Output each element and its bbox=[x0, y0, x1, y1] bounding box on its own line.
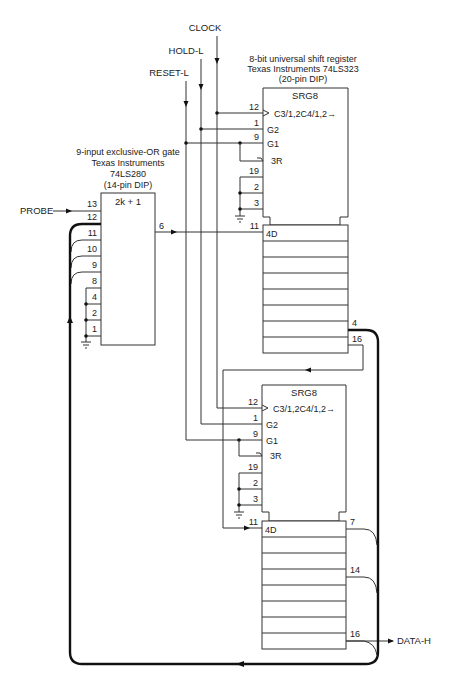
gate-title-line-1: 9-input exclusive-OR gate bbox=[76, 147, 180, 157]
data-in-label: 4D bbox=[265, 525, 277, 535]
hold-arrow-icon bbox=[199, 84, 204, 90]
register-symbol: SRG8 bbox=[291, 387, 317, 398]
probe-arrow-icon bbox=[66, 209, 72, 214]
junction-dot bbox=[237, 487, 241, 491]
output-pin-14: 14 bbox=[350, 565, 360, 575]
pin-2: 2 bbox=[253, 478, 258, 488]
output-pin-4: 4 bbox=[352, 318, 357, 328]
output-pin-16: 16 bbox=[350, 629, 360, 639]
data-out-label: DATA-H bbox=[397, 635, 431, 646]
probe-label: PROBE bbox=[20, 205, 53, 216]
junction-dot bbox=[84, 334, 88, 338]
reset-3r-wire bbox=[239, 440, 262, 456]
output-pin-16: 16 bbox=[352, 334, 362, 344]
pin-12: 12 bbox=[248, 397, 258, 407]
ground-icon bbox=[235, 216, 245, 222]
gate-pin-11: 11 bbox=[88, 228, 97, 238]
gate-pin-8: 8 bbox=[92, 276, 97, 286]
gate-pin-4: 4 bbox=[92, 292, 97, 302]
reset-label: RESET-L bbox=[149, 67, 189, 78]
register-title-line-3: (20-pin DIP) bbox=[279, 74, 328, 84]
junction-dot bbox=[84, 302, 88, 306]
clock-label: CLOCK bbox=[189, 22, 222, 33]
hold-label: HOLD-L bbox=[169, 45, 204, 56]
parity-gate-74ls280: 9-input exclusive-OR gate Texas Instrume… bbox=[20, 147, 263, 348]
g1-label: G1 bbox=[267, 139, 279, 149]
junction-dot bbox=[238, 191, 242, 195]
parity-out-arrow-icon bbox=[171, 230, 177, 235]
junction-dot bbox=[237, 503, 241, 507]
pin-9: 9 bbox=[254, 132, 259, 142]
register-title-line-2: Texas Instruments 74LS323 bbox=[247, 64, 359, 74]
gate-body bbox=[101, 193, 155, 345]
gate-pin-13: 13 bbox=[87, 199, 97, 209]
gate-title-line-4: (14-pin DIP) bbox=[104, 180, 153, 190]
pin-1: 1 bbox=[253, 413, 258, 423]
reset-function-label: 3R bbox=[270, 451, 282, 461]
reset-function-label: 3R bbox=[271, 156, 283, 166]
pin-3: 3 bbox=[254, 198, 259, 208]
junction-dot bbox=[215, 111, 219, 115]
ground-icon bbox=[234, 512, 244, 518]
pin-1: 1 bbox=[254, 118, 259, 128]
pin-19: 19 bbox=[248, 462, 258, 472]
tap-pin-16 bbox=[346, 641, 377, 655]
pin-2: 2 bbox=[254, 182, 259, 192]
junction-dot bbox=[84, 318, 88, 322]
register-title-line-1: 8-bit universal shift register bbox=[249, 54, 357, 64]
gate-pin-6: 6 bbox=[159, 221, 164, 231]
clock-function-label: C3/1,2C4/1,2→ bbox=[274, 109, 336, 119]
pin-9: 9 bbox=[253, 429, 258, 439]
gate-pin-12: 12 bbox=[87, 212, 97, 222]
control-signals: CLOCK HOLD-L RESET-L bbox=[149, 22, 222, 440]
feedback-arrow-icon bbox=[67, 316, 73, 323]
data-out-arrow-icon bbox=[388, 639, 394, 644]
gate-pin-10: 10 bbox=[87, 244, 97, 254]
output-pin-7: 7 bbox=[350, 517, 355, 527]
pin-19: 19 bbox=[249, 166, 259, 176]
data-in-pin: 11 bbox=[249, 517, 258, 527]
feedback-arrow-icon bbox=[236, 661, 244, 667]
junction-dot bbox=[238, 207, 242, 211]
gate-pin-2: 2 bbox=[92, 308, 97, 318]
pin-12: 12 bbox=[249, 102, 259, 112]
gate-symbol: 2k + 1 bbox=[115, 196, 141, 207]
pin-3: 3 bbox=[253, 494, 258, 504]
gate-pin-9: 9 bbox=[92, 260, 97, 270]
junction-dot bbox=[199, 127, 203, 131]
junction-dot bbox=[184, 141, 188, 145]
clock-function-label: C3/1,2C4/1,2→ bbox=[273, 404, 335, 414]
clock-arrow-icon bbox=[215, 58, 220, 64]
data-in-label: 4D bbox=[266, 229, 278, 239]
g2-label: G2 bbox=[266, 420, 278, 430]
g1-label: G1 bbox=[266, 436, 278, 446]
gate-title-line-3: 74LS280 bbox=[110, 169, 146, 179]
gate-pin-1: 1 bbox=[92, 324, 97, 334]
g2-label: G2 bbox=[267, 125, 279, 135]
tap-pin-7 bbox=[346, 529, 377, 545]
register-symbol: SRG8 bbox=[292, 90, 318, 101]
lfsr-schematic: CLOCK HOLD-L RESET-L 9-input exclusive-O… bbox=[0, 0, 450, 681]
cascade-arrow-icon bbox=[305, 368, 311, 373]
reset-arrow-icon bbox=[184, 101, 189, 107]
ground-icon bbox=[81, 342, 91, 348]
gate-title-line-2: Texas Instruments bbox=[91, 158, 165, 168]
tap-pin-14 bbox=[346, 577, 377, 593]
data-in-pin: 11 bbox=[250, 221, 259, 231]
